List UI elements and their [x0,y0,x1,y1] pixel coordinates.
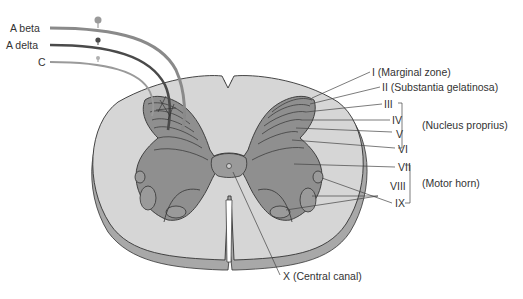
label-c: C [38,56,46,68]
label-lamina-iii: III [384,98,393,110]
label-lamina-ix: IX [395,197,405,209]
label-lamina-v: V [396,128,403,140]
spinal-cord-diagram [0,0,523,299]
label-a-beta: A beta [10,22,40,34]
central-canal [227,164,232,169]
label-lamina-iv: IV [392,114,402,126]
label-lamina-viii: VIII [390,180,406,192]
label-lamina-ii: II (Substantia gelatinosa) [382,81,498,93]
label-nucleus-proprius: (Nucleus proprius) [422,119,508,131]
label-lamina-i: I (Marginal zone) [372,66,451,78]
label-lamina-x: X (Central canal) [283,270,362,282]
label-lamina-vii: VII [398,161,411,173]
label-motor-horn: (Motor horn) [422,177,480,189]
label-a-delta: A delta [6,39,38,51]
label-lamina-vi: VI [398,143,408,155]
ventral-fissure [226,200,232,262]
